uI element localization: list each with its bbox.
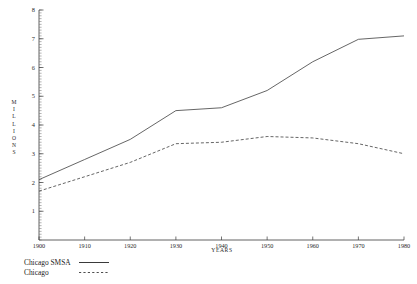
y-axis-title-char: L xyxy=(12,121,16,127)
y-axis-title-char: M xyxy=(12,99,17,105)
chart-legend: Chicago SMSA Chicago xyxy=(24,258,109,277)
x-tick-label: 1930 xyxy=(170,242,182,249)
data-series-group xyxy=(39,36,404,191)
y-tick-label: 2 xyxy=(32,179,35,186)
y-tick-label: 5 xyxy=(32,92,35,99)
population-line-chart: 12345678 1900191019201930194019501960197… xyxy=(0,0,417,284)
y-axis-title-char: N xyxy=(12,142,16,148)
x-tick-label: 1920 xyxy=(124,242,136,249)
y-tick-label: 3 xyxy=(32,150,35,157)
chart-canvas: 12345678 1900191019201930194019501960197… xyxy=(0,0,417,284)
legend-label-0: Chicago SMSA xyxy=(24,258,71,267)
y-axis-title: MILLIONS xyxy=(12,99,17,155)
y-axis-title-char: O xyxy=(12,135,16,141)
y-tick-label: 1 xyxy=(32,207,35,214)
y-tick-label: 6 xyxy=(32,64,35,71)
x-tick-label: 1900 xyxy=(33,242,45,249)
y-tick-label: 7 xyxy=(32,35,36,42)
y-axis-title-char: I xyxy=(13,106,15,112)
x-axis-major-ticks xyxy=(39,237,404,241)
x-tick-label: 1970 xyxy=(352,242,364,249)
x-tick-label: 1980 xyxy=(398,242,410,249)
x-axis-title: YEARS xyxy=(211,247,232,253)
legend-label-1: Chicago xyxy=(24,268,49,277)
x-tick-label: 1950 xyxy=(261,242,273,249)
y-axis-tick-labels: 12345678 xyxy=(32,6,36,214)
y-axis-title-char: L xyxy=(12,113,16,119)
series-line-chicago-smsa xyxy=(39,36,404,180)
series-line-chicago xyxy=(39,137,404,192)
y-axis-title-char: I xyxy=(13,128,15,134)
y-tick-label: 4 xyxy=(32,121,36,128)
x-tick-label: 1960 xyxy=(307,242,319,249)
y-axis-title-char: S xyxy=(12,149,15,155)
x-tick-label: 1910 xyxy=(78,242,90,249)
y-tick-label: 8 xyxy=(32,6,35,13)
